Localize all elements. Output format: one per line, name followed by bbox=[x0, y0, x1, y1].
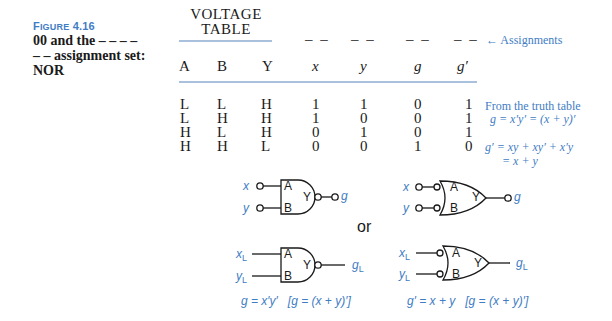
signal-label-g: g bbox=[514, 190, 521, 204]
or-label: or bbox=[357, 218, 371, 236]
nand-formula: g = x′y′ [g = (x + y)′] bbox=[241, 294, 351, 308]
pin-label-A: A bbox=[284, 247, 292, 261]
signal-label-xL: xL bbox=[399, 246, 410, 262]
signal-label-gL: gL bbox=[352, 258, 364, 274]
pin-label-A: A bbox=[452, 246, 460, 260]
signal-label-g: g bbox=[341, 189, 348, 203]
signal-label-x: x bbox=[243, 179, 249, 193]
or-gate-inverted-inputs-bottom bbox=[416, 246, 510, 280]
or-gate-inverted-inputs-top bbox=[416, 181, 511, 215]
pin-label-B: B bbox=[450, 201, 458, 215]
signal-label-x: x bbox=[403, 180, 409, 194]
signal-subscript: L bbox=[242, 253, 247, 263]
gate-diagrams bbox=[0, 0, 612, 321]
pin-label-A: A bbox=[450, 180, 458, 194]
signal-subscript: L bbox=[242, 275, 247, 285]
signal-label-xL: xL bbox=[236, 247, 247, 263]
signal-name: g bbox=[352, 258, 359, 272]
signal-label-y: y bbox=[403, 201, 409, 215]
pin-label-A: A bbox=[284, 179, 292, 193]
pin-label-B: B bbox=[452, 267, 460, 281]
signal-label-y: y bbox=[243, 201, 249, 215]
pin-label-Y: Y bbox=[303, 190, 311, 204]
signal-subscript: L bbox=[523, 262, 528, 272]
pin-label-Y: Y bbox=[303, 258, 311, 272]
signal-label-gL: gL bbox=[516, 256, 528, 272]
signal-label-yL: yL bbox=[236, 269, 247, 285]
signal-subscript: L bbox=[359, 264, 364, 274]
nand-gate-bottom bbox=[252, 248, 345, 282]
signal-label-yL: yL bbox=[399, 267, 410, 283]
signal-subscript: L bbox=[405, 252, 410, 262]
nand-gate-top bbox=[257, 180, 338, 214]
signal-name: g bbox=[516, 256, 523, 270]
or-formula: g′ = x + y [g = (x + y)′] bbox=[407, 294, 528, 308]
pin-label-Y: Y bbox=[472, 190, 480, 204]
pin-label-B: B bbox=[284, 201, 292, 215]
signal-subscript: L bbox=[405, 273, 410, 283]
pin-label-B: B bbox=[284, 269, 292, 283]
pin-label-Y: Y bbox=[474, 256, 482, 270]
